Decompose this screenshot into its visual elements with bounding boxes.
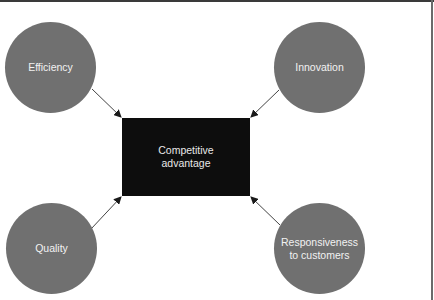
arrow-innovation-to-center [251,90,279,117]
center-box-competitive-advantage: Competitive advantage [122,118,250,196]
node-efficiency-label: Efficiency [28,61,73,74]
node-responsiveness: Responsiveness to customers [274,203,365,294]
node-responsiveness-label: Responsiveness to customers [281,236,358,262]
node-quality-label: Quality [35,242,68,255]
node-quality: Quality [6,203,97,294]
arrow-responsiveness-to-center [251,197,280,225]
center-box-label: Competitive advantage [158,144,213,170]
arrow-efficiency-to-center [92,89,121,117]
node-innovation: Innovation [274,22,365,113]
node-efficiency: Efficiency [5,22,96,113]
node-innovation-label: Innovation [295,61,343,74]
arrow-quality-to-center [91,197,121,229]
